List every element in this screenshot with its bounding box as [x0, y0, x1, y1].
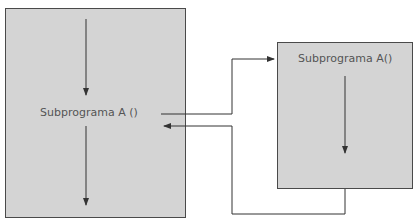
call-arrow	[161, 59, 274, 114]
main-program-label: Subprograma A ()	[40, 106, 138, 119]
subprogram-label: Subprograma A()	[298, 52, 392, 65]
return-arrow	[164, 126, 345, 214]
